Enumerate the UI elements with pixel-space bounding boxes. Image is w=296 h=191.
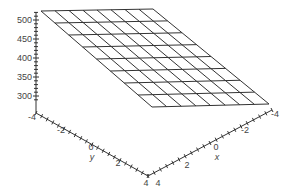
mesh-line-diagonal: [55, 11, 167, 107]
z-tick-label: 400: [17, 53, 32, 63]
x-tick-label: 0: [213, 142, 218, 152]
z-tick-label: 350: [17, 72, 32, 82]
surface-plot: 500 450 400 350 300 -4 -2 0 2 4 y 4 2 0 …: [0, 0, 296, 191]
y-tick-label: -2: [57, 125, 65, 135]
y-tick-label: -4: [28, 112, 36, 122]
mesh-line-diagonal: [153, 9, 269, 104]
y-axis-label: y: [89, 152, 95, 162]
z-tick-label: 300: [17, 91, 32, 101]
x-tick-labels: 4 2 0 -2 -4 x: [155, 109, 279, 188]
mesh-line-diagonal: [83, 10, 196, 106]
x-tick-label: -2: [241, 125, 249, 135]
z-tick-label: 500: [17, 15, 32, 25]
mesh-line-diagonal: [139, 9, 254, 104]
y-tick-labels: -4 -2 0 2 4 y: [28, 112, 149, 188]
z-tick-label: 450: [17, 34, 32, 44]
y-tick-label: 4: [143, 178, 148, 188]
z-tick-labels: 500 450 400 350 300: [17, 15, 32, 101]
y-tick-label: 0: [88, 142, 93, 152]
surface-mesh: [41, 9, 269, 107]
mesh-line-diagonal: [97, 10, 211, 106]
mesh-line-diagonal: [111, 10, 225, 105]
mesh-line-diagonal: [69, 11, 181, 107]
x-tick-label: 4: [155, 178, 160, 188]
x-tick-label: 2: [184, 160, 189, 170]
mesh-line-diagonal: [125, 10, 240, 105]
x-tick-label: -4: [271, 109, 279, 119]
y-tick-label: 2: [115, 158, 120, 168]
x-axis: [147, 108, 273, 178]
x-axis-label: x: [214, 152, 220, 162]
mesh-line-diagonal: [41, 11, 152, 107]
z-axis: [33, 12, 39, 113]
